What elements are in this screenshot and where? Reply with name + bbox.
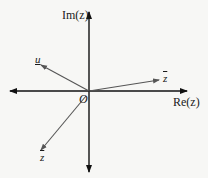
vector-u-arrow [41, 65, 89, 91]
vector-u-label: u [35, 54, 41, 65]
complex-plane-diagram: Im(z) Re(z) O u z z [0, 0, 208, 178]
vector-z-label: z [163, 73, 167, 84]
vector-z-arrow [89, 80, 159, 91]
origin-label: O [79, 93, 88, 105]
vector-z-lower-label: z [40, 152, 44, 163]
imaginary-axis-label: Im(z) [62, 9, 89, 21]
real-axis-label: Re(z) [173, 96, 200, 108]
diagram-graphic [0, 0, 208, 178]
